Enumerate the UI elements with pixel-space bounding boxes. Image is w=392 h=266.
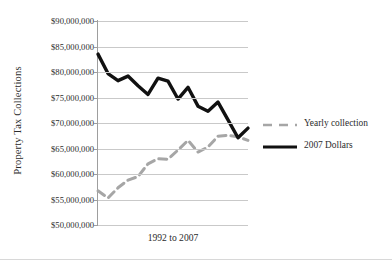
y-axis-tick [94, 98, 98, 99]
y-axis-tick [94, 72, 98, 73]
y-axis-tick-label: $60,000,000 [51, 169, 94, 179]
y-axis-tick [94, 123, 98, 124]
legend-swatch-solid-black [262, 139, 298, 151]
gridline [98, 47, 248, 48]
chart-legend: Yearly collection 2007 Dollars [262, 112, 388, 156]
series-line-yearly-collection [98, 135, 248, 198]
gridline [98, 174, 248, 175]
gridline [98, 123, 248, 124]
gridline [98, 149, 248, 150]
y-axis-tick-label: $90,000,000 [51, 16, 94, 26]
y-axis-tick-label: $80,000,000 [51, 67, 94, 77]
y-axis-title: Property Tax Collections [6, 0, 28, 240]
legend-label-yearly-collection: Yearly collection [304, 118, 368, 128]
bottom-divider [0, 259, 392, 260]
y-axis-tick-label: $85,000,000 [51, 42, 94, 52]
gridline [98, 200, 248, 201]
x-axis-title: 1992 to 2007 [98, 232, 248, 243]
y-axis-tick-label: $50,000,000 [51, 220, 94, 230]
y-axis-tick-label: $65,000,000 [51, 144, 94, 154]
y-axis-tick [94, 174, 98, 175]
y-axis-tick-label: $75,000,000 [51, 93, 94, 103]
gridline [98, 72, 248, 73]
y-axis-title-text: Property Tax Collections [12, 66, 23, 174]
legend-item-2007-dollars: 2007 Dollars [262, 134, 388, 156]
y-axis-tick [94, 225, 98, 226]
gridline [98, 98, 248, 99]
y-axis-tick [94, 47, 98, 48]
plot-area [98, 21, 248, 225]
legend-solid-line-icon [262, 141, 298, 153]
y-axis-tick [94, 21, 98, 22]
y-axis-tick-labels: $90,000,000$85,000,000$80,000,000$75,000… [28, 0, 94, 240]
legend-dashed-line-icon [262, 119, 298, 131]
legend-item-yearly-collection: Yearly collection [262, 112, 388, 134]
legend-label-2007-dollars: 2007 Dollars [304, 140, 353, 150]
y-axis-tick-label: $55,000,000 [51, 195, 94, 205]
y-axis-tick [94, 200, 98, 201]
series-line-2007-dollars [98, 54, 248, 138]
legend-swatch-dashed-gray [262, 117, 298, 129]
y-axis-tick-label: $70,000,000 [51, 118, 94, 128]
gridline [98, 225, 248, 226]
y-axis-tick [94, 149, 98, 150]
chart-figure: Property Tax Collections $90,000,000$85,… [0, 0, 392, 266]
gridline [98, 21, 248, 22]
